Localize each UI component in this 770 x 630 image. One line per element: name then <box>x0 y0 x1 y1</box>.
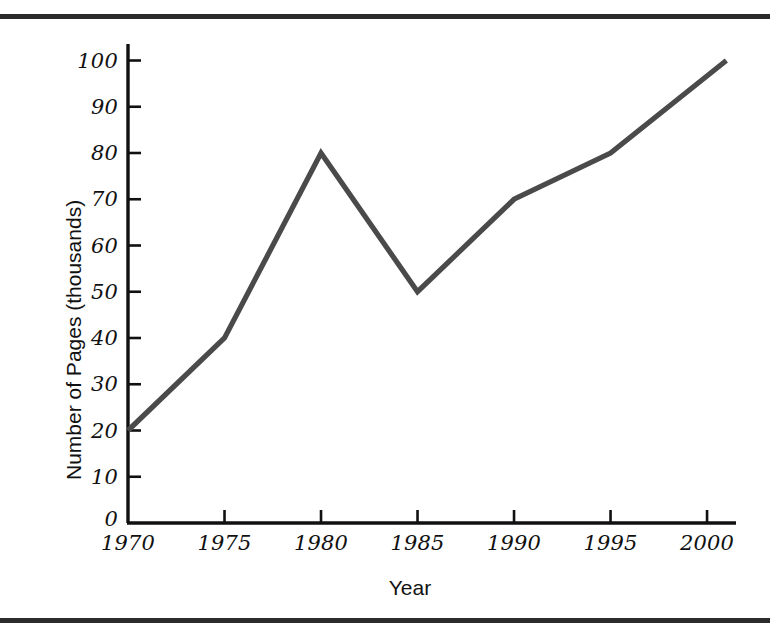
x-tick-label: 1980 <box>294 531 348 555</box>
y-tick-label: 10 <box>91 465 118 489</box>
x-tick-label: 1975 <box>197 531 251 555</box>
line-chart-figure: 0102030405060708090100 19701975198019851… <box>0 20 770 616</box>
y-tick-marks <box>128 61 141 477</box>
y-tick-label: 50 <box>91 280 118 304</box>
axes-group <box>127 44 736 523</box>
y-tick-label: 30 <box>91 372 118 396</box>
x-tick-label: 1985 <box>390 531 444 555</box>
y-tick-label: 0 <box>104 507 118 531</box>
y-tick-label: 90 <box>91 95 118 119</box>
y-tick-label: 20 <box>91 419 118 443</box>
y-tick-label: 80 <box>91 141 118 165</box>
x-tick-label: 1990 <box>487 531 541 555</box>
y-tick-label: 70 <box>91 187 118 211</box>
x-tick-label: 1970 <box>101 531 155 555</box>
bottom-horizontal-rule <box>0 618 770 623</box>
data-series-line <box>128 61 726 431</box>
figure-page: 0102030405060708090100 19701975198019851… <box>0 0 770 630</box>
x-tick-label: 2000 <box>680 531 734 555</box>
x-tick-marks <box>225 510 708 523</box>
x-axis-title: Year <box>389 576 431 600</box>
y-tick-label: 100 <box>77 49 118 73</box>
y-tick-label: 40 <box>91 326 118 350</box>
x-tick-label: 1995 <box>583 531 637 555</box>
top-horizontal-rule <box>0 14 770 19</box>
y-tick-label: 60 <box>91 234 118 258</box>
y-axis-title: Number of Pages (thousands) <box>62 200 86 480</box>
